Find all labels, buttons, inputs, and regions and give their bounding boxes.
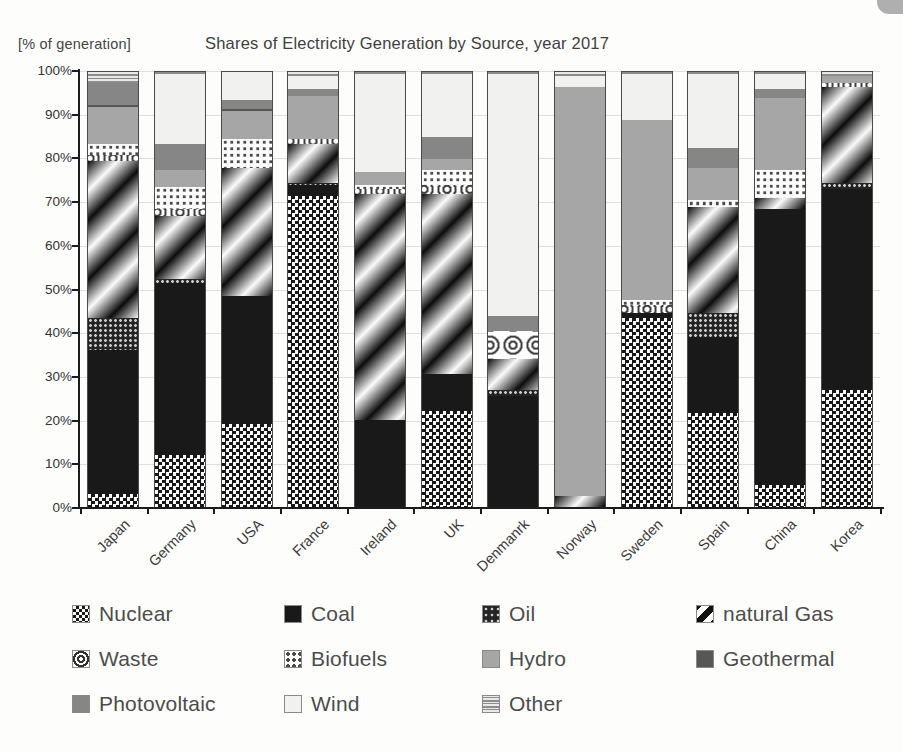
legend-item-biofuels: Biofuels [284,643,482,675]
segment-japan-oil [88,318,138,351]
segment-japan-biofuels [88,144,138,155]
legend-swatch-hydro-icon [482,650,500,668]
bar-korea [821,71,873,508]
y-tick-100 [72,70,79,72]
x-label-denmanrk: Denmanrk [474,516,533,575]
segment-japan-pv [88,83,138,105]
segment-norway-wind [555,76,605,87]
legend-item-other: Other [482,688,696,720]
plot-area [80,71,880,508]
legend-item-waste: Waste [72,643,284,675]
x-tick [813,509,815,514]
segment-norway-gas [555,496,605,507]
x-tick [547,509,549,514]
segment-uk-coal [422,374,472,411]
y-tick-80 [72,157,79,159]
segment-china-nuclear [755,485,805,507]
segment-usa-gas [222,168,272,296]
legend-swatch-coal-icon [284,605,302,623]
legend-item-wind: Wind [284,688,482,720]
bar-sweden [621,71,673,508]
legend-swatch-gas-icon [696,605,714,623]
legend-swatch-pv-icon [72,695,90,713]
y-tick-0 [72,507,79,509]
segment-spain-wind [688,74,738,148]
segment-korea-gas [822,87,872,183]
x-tick [480,509,482,514]
x-tick [147,509,149,514]
segment-france-gas [288,144,338,183]
x-label-uk: UK [440,516,466,542]
y-tick-label-30: 30% [0,369,72,384]
x-label-germany: Germany [146,516,199,569]
segment-sweden-nuclear [622,318,672,507]
bar-china [754,71,806,508]
bar-uk [421,71,473,508]
segment-japan-gas [88,161,138,318]
y-tick-40 [72,332,79,334]
segment-china-biofuels [755,170,805,198]
segment-france-coal [288,185,338,196]
x-label-japan: Japan [93,516,132,555]
x-label-norway: Norway [553,516,599,562]
legend-item-geothermal: Geothermal [696,643,884,675]
x-label-usa: USA [234,516,266,548]
legend-label-geothermal: Geothermal [723,647,835,671]
legend-label-wind: Wind [311,692,360,716]
segment-germany-coal [155,283,205,455]
bar-france [287,71,339,508]
legend-swatch-geothermal-icon [696,650,714,668]
segment-denmanrk-wind [488,74,538,315]
segment-uk-biofuels [422,170,472,185]
segment-germany-biofuels [155,187,205,209]
segment-ireland-hydro [355,172,405,185]
legend-label-other: Other [509,692,563,716]
legend-item-hydro: Hydro [482,643,696,675]
legend-label-hydro: Hydro [509,647,566,671]
y-tick-label-20: 20% [0,413,72,428]
x-tick [747,509,749,514]
x-label-korea: Korea [827,516,866,555]
legend-swatch-other-icon [482,695,500,713]
segment-sweden-waste [622,305,672,314]
bar-denmanrk [487,71,539,508]
legend-swatch-wind-icon [284,695,302,713]
segment-germany-hydro [155,170,205,187]
segment-uk-hydro [422,159,472,170]
chart-legend: NuclearCoalOilnatural GasWasteBiofuelsHy… [72,598,884,720]
x-tick [280,509,282,514]
x-tick [613,509,615,514]
bar-usa [221,71,273,508]
segment-japan-hydro [88,107,138,144]
y-tick-label-80: 80% [0,150,72,165]
x-label-china: China [761,516,799,554]
chart-page: [% of generation] Shares of Electricity … [0,0,903,753]
x-label-spain: Spain [695,516,733,554]
legend-label-coal: Coal [311,602,355,626]
y-tick-label-10: 10% [0,456,72,471]
legend-swatch-biofuels-icon [284,650,302,668]
segment-spain-oil [688,313,738,337]
legend-label-oil: Oil [509,602,535,626]
y-tick-70 [72,201,79,203]
legend-label-gas: natural Gas [723,602,834,626]
segment-denmanrk-coal [488,396,538,507]
segment-japan-other [88,72,138,83]
y-axis-unit-note: [% of generation] [18,36,131,52]
segment-usa-hydro [222,111,272,139]
legend-label-nuclear: Nuclear [99,602,173,626]
legend-label-pv: Photovoltaic [99,692,216,716]
y-tick-label-70: 70% [0,194,72,209]
bar-germany [154,71,206,508]
segment-uk-pv [422,137,472,159]
segment-uk-gas [422,194,472,375]
segment-france-nuclear [288,196,338,507]
segment-usa-wind [222,72,272,100]
segment-denmanrk-waste [488,331,538,359]
y-tick-90 [72,114,79,116]
segment-usa-pv [222,100,272,109]
y-tick-60 [72,245,79,247]
page-corner-shadow [877,0,903,14]
x-tick [347,509,349,514]
segment-japan-coal [88,350,138,494]
